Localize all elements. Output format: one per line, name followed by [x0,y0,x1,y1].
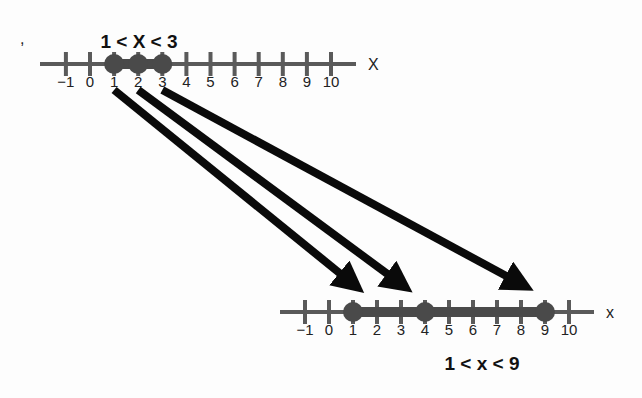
top-tick-label: 9 [303,73,311,90]
top-point [104,54,124,74]
mapping-arrow [162,90,521,284]
top-point [152,54,172,74]
bottom-tick-label: 8 [517,321,525,338]
top-inequality-label: 1 < X < 3 [100,31,177,52]
bottom-tick-label: 7 [493,321,501,338]
bottom-tick-label: 4 [421,321,429,338]
bottom-tick-label: 0 [325,321,333,338]
bottom-tick-label: 10 [561,321,578,338]
top-tick-label: 7 [255,73,263,90]
top-tick-label: 0 [86,73,94,90]
top-tick-label: 5 [206,73,214,90]
bottom-point [535,302,555,322]
top-number-line: −1012345678910X1 < X < 3 [40,31,379,90]
bottom-point [415,302,435,322]
bottom-tick-label: −1 [296,321,313,338]
top-tick-label: 4 [182,73,190,90]
top-point [128,54,148,74]
top-tick-label: 8 [279,73,287,90]
bottom-tick-label: 3 [397,321,405,338]
bottom-tick-label: 1 [349,321,357,338]
bottom-tick-label: 5 [445,321,453,338]
bottom-tick-label: 9 [541,321,549,338]
number-line-diagram: , −1012345678910X1 < X < 3 −101234567891… [0,0,642,398]
mapping-arrow [138,90,401,284]
stray-mark: , [20,30,24,47]
bottom-tick-label: 6 [469,321,477,338]
bottom-inequality-label: 1 < x < 9 [444,353,519,374]
bottom-point [343,302,363,322]
bottom-number-line: −1012345678910x1 < x < 9 [280,300,614,374]
top-tick-label: 6 [230,73,238,90]
top-axis-name: X [368,56,379,73]
top-tick-label: −1 [57,73,74,90]
mapping-arrow [114,90,353,284]
top-tick-label: 10 [323,73,340,90]
bottom-tick-label: 2 [373,321,381,338]
bottom-axis-name: x [606,304,614,321]
mapping-arrows [114,90,521,284]
